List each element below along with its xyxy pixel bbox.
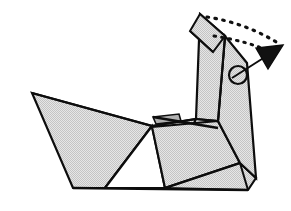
origami-diagram-canvas [0,0,291,211]
origami-diagram-figure [0,0,291,211]
